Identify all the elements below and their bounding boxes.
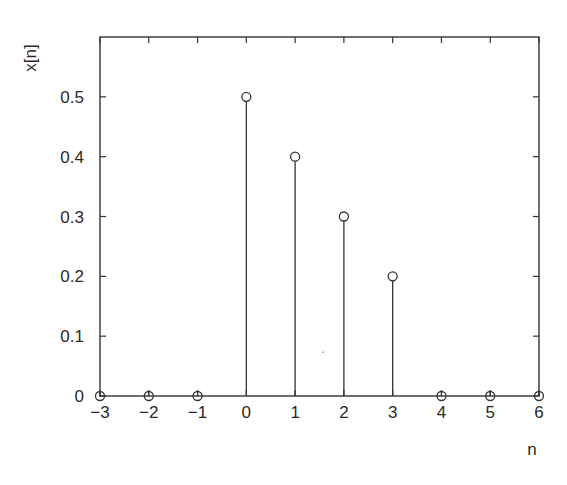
x-tick-label: 5 xyxy=(485,403,494,422)
stem-point xyxy=(291,152,300,396)
stem-point xyxy=(388,272,397,396)
y-tick-label: 0 xyxy=(75,387,84,406)
plot-border xyxy=(100,37,539,396)
circle-marker-icon xyxy=(291,152,300,161)
x-tick-label: 6 xyxy=(534,403,543,422)
y-tick-label: 0.4 xyxy=(60,148,84,167)
y-axis-label: x[n] xyxy=(21,44,40,71)
stem-series xyxy=(96,92,544,400)
stem-point xyxy=(339,212,348,396)
y-tick-label: 0.1 xyxy=(60,327,84,346)
x-tick-labels: −3−2−10123456 xyxy=(90,403,543,422)
x-axis-label: n xyxy=(527,440,536,459)
y-tick-labels: 00.10.20.30.40.5 xyxy=(60,88,84,406)
circle-marker-icon xyxy=(242,92,251,101)
stray-dot xyxy=(323,352,325,354)
stem-point xyxy=(242,92,251,396)
x-tick-label: 2 xyxy=(339,403,348,422)
x-tick-label: 4 xyxy=(437,403,446,422)
circle-marker-icon xyxy=(339,212,348,221)
plot-frame xyxy=(100,37,539,396)
axis-ticks xyxy=(100,37,539,396)
x-tick-label: −3 xyxy=(90,403,109,422)
circle-marker-icon xyxy=(388,272,397,281)
stem-plot: −3−2−10123456 00.10.20.30.40.5 n x[n] xyxy=(0,0,567,485)
y-tick-label: 0.5 xyxy=(60,88,84,107)
x-tick-label: 0 xyxy=(242,403,251,422)
x-tick-label: 3 xyxy=(388,403,397,422)
x-tick-label: 1 xyxy=(290,403,299,422)
y-tick-label: 0.3 xyxy=(60,208,84,227)
x-tick-label: −2 xyxy=(139,403,158,422)
y-tick-label: 0.2 xyxy=(60,267,84,286)
x-tick-label: −1 xyxy=(188,403,207,422)
